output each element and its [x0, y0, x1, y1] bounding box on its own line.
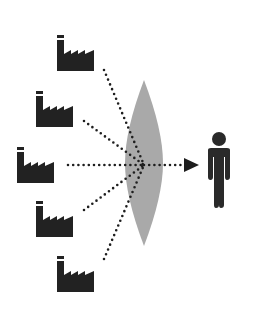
factory-icon: [57, 35, 94, 71]
lens-shape: [125, 80, 163, 246]
factory-icon: [17, 147, 54, 183]
factory-icon: [57, 256, 94, 292]
arrow-right-icon: [184, 158, 199, 172]
factory-icon: [36, 201, 73, 237]
converging-lines: [68, 70, 183, 259]
person-icon: [208, 132, 230, 208]
factory-icon: [36, 91, 73, 127]
diagram-canvas: [0, 0, 255, 309]
